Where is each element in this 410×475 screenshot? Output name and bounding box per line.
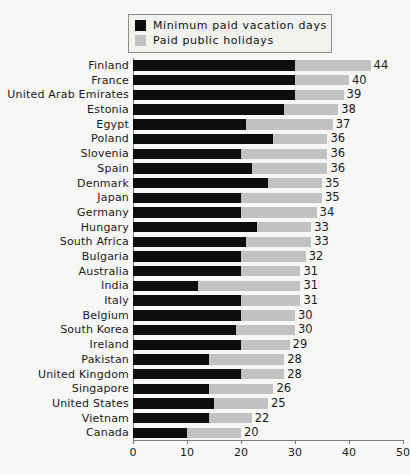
- stacked-bar: [133, 222, 311, 232]
- category-label: Slovenia: [81, 146, 129, 161]
- bar-segment-paid-public-holidays: [246, 119, 332, 129]
- bar-segment-paid-public-holidays: [209, 384, 274, 394]
- chart-bar-row: Belgium30: [133, 308, 403, 323]
- bar-total-label: 33: [311, 234, 329, 249]
- bar-total-label: 32: [306, 249, 324, 264]
- chart-bar-row: Egypt37: [133, 117, 403, 132]
- chart-bar-row: India31: [133, 278, 403, 293]
- bar-segment-paid-public-holidays: [241, 295, 300, 305]
- bar-segment-minimum-paid-vacation-days: [133, 75, 295, 85]
- bar-segment-paid-public-holidays: [187, 428, 241, 438]
- category-label: Pakistan: [81, 352, 129, 367]
- bar-segment-minimum-paid-vacation-days: [133, 398, 214, 408]
- bar-segment-minimum-paid-vacation-days: [133, 428, 187, 438]
- bar-segment-paid-public-holidays: [214, 398, 268, 408]
- bar-total-label: 29: [290, 337, 308, 352]
- bar-total-label: 33: [311, 220, 329, 235]
- chart-bar-row: Japan35: [133, 190, 403, 205]
- x-axis-tick-label: 20: [234, 446, 248, 459]
- stacked-bar: [133, 60, 371, 70]
- category-label: South Korea: [60, 322, 129, 337]
- bar-segment-paid-public-holidays: [241, 149, 327, 159]
- bar-total-label: 30: [295, 308, 313, 323]
- stacked-bar: [133, 295, 300, 305]
- bar-total-label: 36: [327, 146, 345, 161]
- x-axis-tick: [241, 440, 242, 444]
- bar-segment-minimum-paid-vacation-days: [133, 310, 241, 320]
- chart-bar-row: Canada20: [133, 425, 403, 440]
- bar-total-label: 22: [252, 411, 270, 426]
- bar-total-label: 36: [327, 131, 345, 146]
- bar-segment-paid-public-holidays: [295, 75, 349, 85]
- chart-bar-row: Italy31: [133, 293, 403, 308]
- stacked-bar: [133, 354, 284, 364]
- bar-segment-minimum-paid-vacation-days: [133, 149, 241, 159]
- x-axis-tick-label: 30: [288, 446, 302, 459]
- chart-bar-row: Singapore26: [133, 381, 403, 396]
- bar-segment-paid-public-holidays: [295, 90, 344, 100]
- bar-segment-minimum-paid-vacation-days: [133, 104, 284, 114]
- chart-bar-row: United Kingdom28: [133, 367, 403, 382]
- category-label: United Kingdom: [38, 367, 129, 382]
- stacked-bar: [133, 251, 306, 261]
- category-label: Hungary: [81, 220, 129, 235]
- legend-item-paid-public-holidays: Paid public holidays: [135, 33, 325, 48]
- bar-total-label: 20: [241, 425, 259, 440]
- stacked-bar: [133, 281, 300, 291]
- bar-segment-minimum-paid-vacation-days: [133, 384, 209, 394]
- category-label: Egypt: [96, 117, 129, 132]
- chart-bar-row: South Africa33: [133, 234, 403, 249]
- plot-area: Finland44France40United Arab Emirates39E…: [133, 58, 403, 440]
- bar-segment-paid-public-holidays: [241, 369, 284, 379]
- x-axis-tick: [403, 440, 404, 444]
- bar-segment-paid-public-holidays: [198, 281, 301, 291]
- category-label: Denmark: [77, 176, 129, 191]
- bar-segment-paid-public-holidays: [273, 134, 327, 144]
- stacked-bar: [133, 369, 284, 379]
- x-axis-tick-label: 0: [130, 446, 137, 459]
- bar-segment-minimum-paid-vacation-days: [133, 354, 209, 364]
- bar-segment-paid-public-holidays: [241, 193, 322, 203]
- bar-total-label: 35: [322, 190, 340, 205]
- chart-bar-row: Finland44: [133, 58, 403, 73]
- bar-segment-minimum-paid-vacation-days: [133, 134, 273, 144]
- chart-bar-row: Spain36: [133, 161, 403, 176]
- category-label: Estonia: [87, 102, 129, 117]
- bar-segment-paid-public-holidays: [241, 266, 300, 276]
- bar-segment-minimum-paid-vacation-days: [133, 266, 241, 276]
- chart-bar-row: Germany34: [133, 205, 403, 220]
- category-label: Vietnam: [82, 411, 129, 426]
- stacked-bar: [133, 310, 295, 320]
- stacked-bar: [133, 237, 311, 247]
- bar-segment-paid-public-holidays: [252, 163, 328, 173]
- bar-segment-paid-public-holidays: [241, 207, 317, 217]
- chart-bar-row: Vietnam22: [133, 411, 403, 426]
- stacked-bar: [133, 428, 241, 438]
- category-label: South Africa: [60, 234, 129, 249]
- chart-bar-row: Poland36: [133, 131, 403, 146]
- bar-segment-paid-public-holidays: [246, 237, 311, 247]
- bar-segment-paid-public-holidays: [241, 310, 295, 320]
- chart-legend: Minimum paid vacation days Paid public h…: [128, 14, 332, 53]
- category-label: Singapore: [72, 381, 129, 396]
- chart-bar-row: South Korea30: [133, 322, 403, 337]
- bar-total-label: 36: [327, 161, 345, 176]
- bar-segment-minimum-paid-vacation-days: [133, 119, 246, 129]
- bar-segment-paid-public-holidays: [241, 340, 290, 350]
- category-label: India: [101, 278, 129, 293]
- chart-bar-row: United Arab Emirates39: [133, 87, 403, 102]
- bar-segment-minimum-paid-vacation-days: [133, 369, 241, 379]
- chart-bar-row: Ireland29: [133, 337, 403, 352]
- x-axis-tick: [295, 440, 296, 444]
- category-label: Spain: [97, 161, 129, 176]
- legend-label-paid-public-holidays: Paid public holidays: [153, 35, 274, 46]
- bar-segment-minimum-paid-vacation-days: [133, 163, 252, 173]
- stacked-bar: [133, 413, 252, 423]
- bar-segment-minimum-paid-vacation-days: [133, 295, 241, 305]
- category-label: Germany: [77, 205, 129, 220]
- chart-bar-row: Estonia38: [133, 102, 403, 117]
- x-axis-tick: [133, 440, 134, 444]
- bar-total-label: 31: [300, 264, 318, 279]
- bar-total-label: 26: [273, 381, 291, 396]
- bar-segment-minimum-paid-vacation-days: [133, 325, 236, 335]
